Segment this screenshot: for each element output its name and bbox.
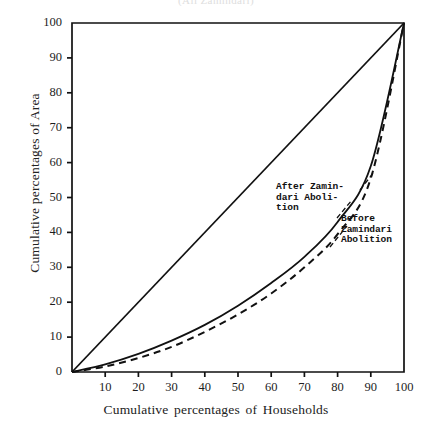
x-axis-title: Cumulative percentages of Households <box>0 402 432 418</box>
annotation-after-zamindari-abolition: After Zamin- dari Aboli- tion <box>276 182 344 214</box>
y-axis-title-wrapper: Cumulative percentages of Area <box>25 53 43 313</box>
data-curves <box>72 23 404 372</box>
series-line-of-equality <box>72 23 404 372</box>
y-tick-label: 0 <box>28 364 62 379</box>
cropped-header-text: (All Zamindari) <box>0 0 432 6</box>
y-tick-label: 10 <box>28 329 62 344</box>
annotation-before-zamindari-abolition: Before Zamindari Abolition <box>341 214 392 246</box>
y-axis-title: Cumulative percentages of Area <box>27 93 42 273</box>
x-tick-label: 100 <box>384 380 424 395</box>
y-tick-label: 100 <box>28 15 62 30</box>
lorenz-curve-figure: (All Zamindari) 0102030405060708090100 1… <box>0 0 432 432</box>
